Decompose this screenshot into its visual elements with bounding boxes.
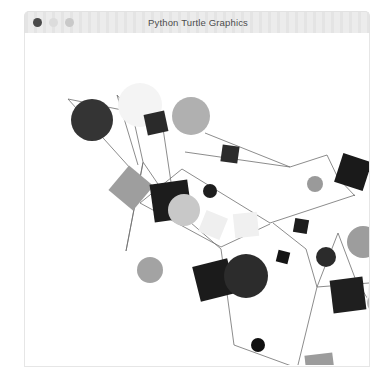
square-mark [330,277,367,314]
canvas-background [25,33,369,365]
window-title: Python Turtle Graphics [25,12,371,34]
square-mark [144,111,169,136]
turtle-canvas-container[interactable] [24,33,370,367]
circle-mark [168,194,200,226]
square-mark [293,218,309,234]
circle-mark [224,254,268,298]
turtle-graphics-window: Python Turtle Graphics [24,11,370,367]
circle-mark [203,184,217,198]
circle-mark [251,338,265,352]
circle-mark [71,99,113,141]
circle-mark [172,97,210,135]
square-mark [220,144,239,163]
window-titlebar[interactable]: Python Turtle Graphics [24,11,370,33]
square-mark [233,212,259,238]
circle-mark [316,247,336,267]
circle-mark [137,257,163,283]
screenshot-root: Python Turtle Graphics [0,0,374,387]
turtle-drawing-canvas [25,33,369,365]
circle-mark [307,176,323,192]
